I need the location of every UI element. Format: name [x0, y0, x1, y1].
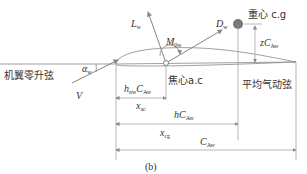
zero-lift-chord-label: 机翼零升弦: [4, 69, 54, 81]
mean-chord-label: 平均气动弦: [242, 78, 292, 90]
velocity-label: V: [76, 90, 84, 101]
h-c-label: hCAw: [174, 109, 194, 121]
alpha-label: αw: [82, 63, 92, 75]
moment-label: M0w: [165, 36, 182, 48]
figure-caption: (b): [145, 161, 157, 173]
drag-label: Dw: [215, 18, 228, 30]
cg-label: 重心 c.g: [248, 8, 286, 20]
h-nw-label: hnwCAw: [124, 83, 152, 95]
velocity-vector: [72, 60, 118, 83]
lift-label: Lw: [130, 18, 142, 30]
lift-vector: [148, 12, 166, 63]
chord-label: CAw: [200, 136, 215, 148]
airfoil-diagram: 机翼零升弦 αw V Lw M0w Dw 重心 c.g zCAw 焦心a.c 平…: [0, 0, 307, 174]
zc-label: zCAw: [259, 37, 279, 49]
x-ac-label: xac: [135, 100, 146, 112]
x-cg-label: xcg: [159, 127, 170, 139]
aerodynamic-center-marker: [164, 61, 169, 66]
ac-label: 焦心a.c: [168, 74, 203, 86]
